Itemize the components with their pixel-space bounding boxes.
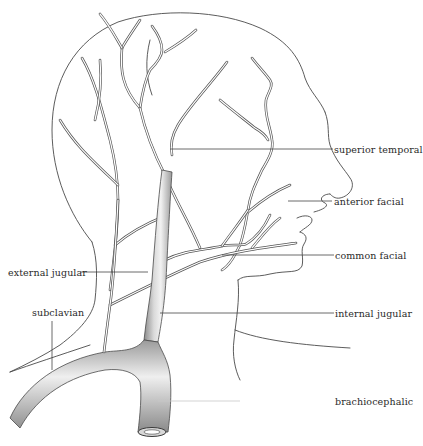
label-external-jugular: external jugular	[8, 267, 87, 278]
label-brachiocephalic: brachiocephalic	[335, 396, 413, 407]
label-internal-jugular: internal jugular	[335, 308, 412, 319]
label-common-facial: common facial	[335, 250, 406, 261]
head-outline	[10, 13, 352, 380]
label-anterior-facial: anterior facial	[334, 196, 404, 207]
major-vessels	[10, 170, 172, 437]
label-superior-temporal: superior temporal	[334, 144, 423, 155]
label-subclavian: subclavian	[32, 307, 84, 318]
facial-veins	[110, 210, 296, 305]
